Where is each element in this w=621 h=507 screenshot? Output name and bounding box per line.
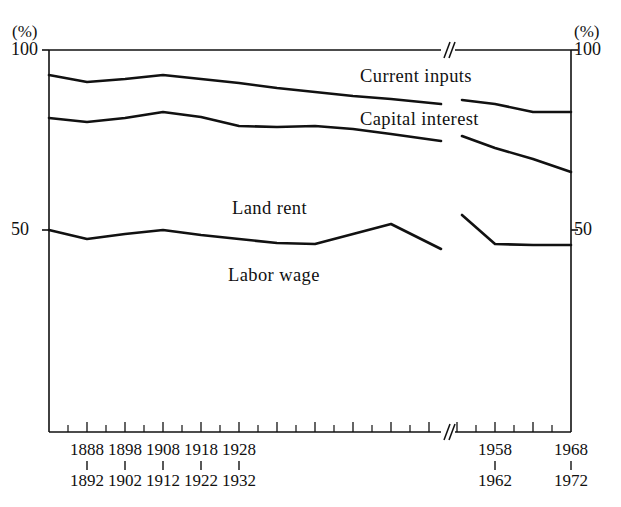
- area-label-current-inputs: Current inputs: [360, 66, 472, 87]
- y-axis-ticks-left: [42, 50, 49, 230]
- area-label-land-rent: Land rent: [232, 198, 307, 219]
- y-axis-label-right-100: 100: [574, 39, 601, 60]
- x-tick-label-1958: 1958: [465, 440, 525, 460]
- y-axis-label-right-50: 50: [574, 219, 592, 240]
- series-line-land-rent: [49, 215, 571, 249]
- x-axis-ticks: [68, 422, 552, 432]
- x-tick-label-1962: 1962: [465, 471, 525, 491]
- x-tick-label-1968: 1968: [541, 440, 601, 460]
- axis-break-marker-bottom: [444, 424, 455, 440]
- x-tick-label-1972: 1972: [541, 471, 601, 491]
- x-tick-label-1932: 1932: [209, 471, 269, 491]
- x-tick-label-1928: 1928: [209, 440, 269, 460]
- series-line-current-inputs: [49, 75, 571, 112]
- y-axis-ticks-right: [571, 50, 578, 230]
- chart-plot-svg: [0, 0, 621, 507]
- y-axis-label-left-100: 100: [11, 39, 38, 60]
- chart-root: (%) 100 50 (%) 100 50 Current inputs Cap…: [0, 0, 621, 507]
- area-label-labor-wage: Labor wage: [228, 265, 320, 286]
- series-line-capital-interest: [49, 112, 571, 172]
- axis-break-marker-top: [444, 42, 455, 58]
- y-axis-label-left-50: 50: [11, 219, 29, 240]
- area-label-capital-interest: Capital interest: [360, 109, 479, 130]
